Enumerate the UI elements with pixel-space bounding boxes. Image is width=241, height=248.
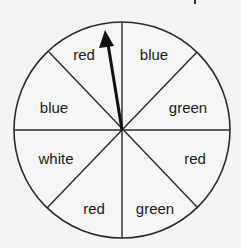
section-label: green (169, 99, 207, 116)
section-label: white (37, 150, 73, 167)
section-label: red (73, 46, 95, 63)
section-label: blue (140, 46, 168, 63)
section-label: red (83, 200, 105, 217)
section-label: green (136, 200, 174, 217)
section-label: red (184, 150, 206, 167)
section-label: blue (40, 99, 68, 116)
spinner: blue green red green red white blue red (0, 0, 241, 248)
cropped-text-fragment (194, 0, 196, 4)
